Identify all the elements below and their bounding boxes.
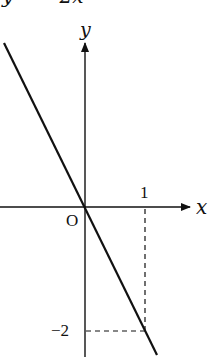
graph-diagram: y = −2x y x O 1 −2 — [0, 0, 211, 360]
equation-caption: y = −2x — [1, 0, 84, 8]
x-tick-1-label: 1 — [140, 183, 149, 202]
origin-label: O — [66, 211, 78, 230]
y-axis-label: y — [79, 18, 91, 40]
y-tick-neg2-label: −2 — [51, 321, 69, 340]
x-axis-label: x — [196, 195, 207, 219]
function-line — [4, 43, 157, 355]
